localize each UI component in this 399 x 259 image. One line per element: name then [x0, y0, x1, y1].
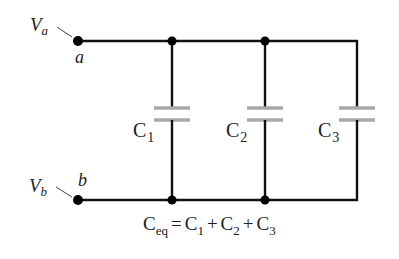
capacitor-c1-label: C1 — [133, 119, 154, 145]
terminal-a-node — [73, 36, 83, 46]
leader-vb — [56, 187, 72, 197]
junction-bottom-2 — [261, 196, 270, 205]
branch-c1 — [154, 41, 190, 200]
branch-c2 — [247, 41, 283, 200]
branch-c3 — [339, 40, 375, 201]
junction-top-2 — [261, 37, 270, 46]
capacitor-c3-label: C3 — [318, 119, 339, 145]
junction-bottom-1 — [168, 196, 177, 205]
node-a-label: a — [75, 47, 84, 67]
node-b-label: b — [78, 170, 87, 190]
equivalent-capacitance-equation: Ceq=C1+C2+C3 — [143, 213, 276, 238]
circuit-diagram: Va a Vb b C1 C2 C3 Ceq=C1+C2+C3 — [0, 0, 399, 259]
leader-va — [57, 27, 72, 37]
junction-top-1 — [168, 37, 177, 46]
terminal-b-node — [73, 195, 83, 205]
voltage-b-label: Vb — [29, 175, 48, 199]
voltage-a-label: Va — [30, 14, 49, 38]
capacitor-c2-label: C2 — [226, 119, 247, 145]
